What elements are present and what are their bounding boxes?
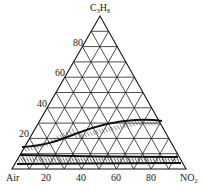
grid-line: [91, 31, 168, 169]
upper-limit-curve: [22, 120, 162, 147]
hatch-mark: [18, 159, 21, 163]
upper-curve-hatching: [24, 121, 162, 152]
hatch-mark: [114, 126, 117, 130]
bottom-tick-40: 40: [76, 172, 86, 183]
apex-label-c3h8: C3H8: [90, 2, 110, 14]
bottom-tick-20: 20: [41, 172, 51, 183]
hatch-mark: [72, 129, 75, 133]
hatch-mark: [117, 125, 120, 129]
ternary-diagram: C3H8 Air NO2 20 40 60 80 80 60 40 20: [0, 0, 204, 195]
hatch-mark: [69, 130, 72, 134]
hatch-mark: [24, 148, 27, 152]
right-vertex-label-no2: NO2: [180, 172, 197, 184]
left-tick-20: 20: [19, 128, 29, 139]
hatch-mark: [153, 122, 156, 126]
left-tick-80: 80: [73, 37, 83, 48]
left-vertex-label-air: Air: [6, 172, 20, 183]
lower-band-upper-line: [20, 155, 178, 157]
hatch-mark: [84, 133, 87, 137]
left-tick-60: 60: [55, 67, 65, 78]
hatch-mark: [156, 122, 159, 126]
hatch-mark: [132, 122, 135, 126]
hatch-mark: [108, 127, 111, 131]
bottom-tick-60: 60: [111, 172, 121, 183]
hatch-mark: [105, 128, 108, 132]
lower-band-lower-line: [17, 163, 181, 164]
bottom-tick-80: 80: [146, 172, 156, 183]
hatch-mark: [87, 132, 90, 136]
grid-line: [74, 62, 134, 169]
left-tick-40: 40: [37, 98, 47, 109]
hatch-mark: [120, 125, 123, 129]
grid-line: [64, 62, 126, 169]
hatch-mark: [90, 132, 93, 136]
hatch-mark: [99, 129, 102, 133]
